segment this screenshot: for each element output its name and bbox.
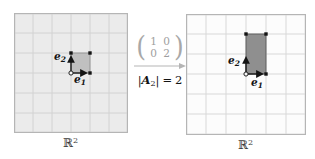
r2-label-left: ℝ2	[63, 137, 78, 149]
e2-letter: e	[54, 50, 61, 62]
transformed-rectangle	[246, 34, 266, 74]
r2-label-right: ℝ2	[238, 139, 253, 151]
e2-letter: e	[228, 54, 235, 66]
corner-dot	[88, 71, 91, 74]
e1-letter: e	[251, 76, 258, 88]
mapping-arrow-icon	[134, 62, 186, 70]
corner-dot	[244, 32, 247, 35]
matrix-entry: 0	[147, 47, 160, 59]
matrix-entry: 0	[160, 35, 173, 47]
determinant-text: |A2|=2	[138, 73, 183, 88]
matrix-entry: 1	[147, 35, 160, 47]
matrix-right-paren: )	[174, 33, 184, 60]
corner-dot	[264, 72, 267, 75]
e2-label-left: e2	[54, 51, 66, 64]
transform-matrix: ( 1 0 0 2 )	[136, 34, 184, 59]
det-right-bar: |	[156, 73, 160, 87]
det-equals: =	[162, 73, 172, 87]
left-grid	[14, 13, 128, 133]
e1-label-right: e1	[251, 77, 263, 90]
r-superscript: 2	[73, 136, 78, 145]
corner-dot	[69, 51, 72, 54]
right-grid	[186, 14, 306, 135]
e2-subscript: 2	[235, 59, 240, 68]
origin-point	[244, 72, 248, 76]
matrix-left-paren: (	[136, 33, 146, 60]
e1-subscript: 1	[258, 81, 263, 90]
corner-dot	[264, 32, 267, 35]
e1-label-left: e1	[74, 74, 86, 87]
r-symbol: ℝ	[238, 138, 248, 152]
unit-square	[71, 53, 90, 73]
e2-label-right: e2	[228, 55, 240, 68]
matrix-entry: 2	[160, 47, 173, 59]
det-value: 2	[175, 73, 182, 87]
matrix-entries: 1 0 0 2	[147, 35, 173, 59]
e1-letter: e	[74, 73, 81, 85]
e1-subscript: 1	[81, 78, 86, 87]
diagram-canvas: e2 e1 ℝ2 ( 1 0 0 2 ) |A2|=2	[0, 0, 315, 159]
r-symbol: ℝ	[63, 136, 73, 150]
e2-subscript: 2	[61, 55, 66, 64]
r-superscript: 2	[248, 138, 253, 147]
origin-point	[69, 71, 73, 75]
transform-block: ( 1 0 0 2 ) |A2|=2	[131, 34, 189, 88]
corner-dot	[88, 51, 91, 54]
